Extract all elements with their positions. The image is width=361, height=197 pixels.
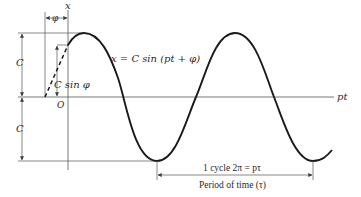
phase-label: φ [52,13,59,23]
equation-label: x = C sin (pt + φ) [111,53,200,64]
x-axis-label: x [65,0,71,11]
initial-displacement-label: C sin φ [54,79,90,90]
sine-wave-diagram: pt x O C C φ C sin φ x = C sin (pt + φ) … [0,0,361,197]
period-label: Period of time (τ) [199,180,266,191]
cycle-label: 1 cycle 2π = pτ [203,163,261,173]
pt-axis-label: pt [337,91,348,102]
amplitude-label-top: C [16,57,24,68]
origin-label: O [57,100,65,110]
amplitude-label-bottom: C [16,123,24,134]
